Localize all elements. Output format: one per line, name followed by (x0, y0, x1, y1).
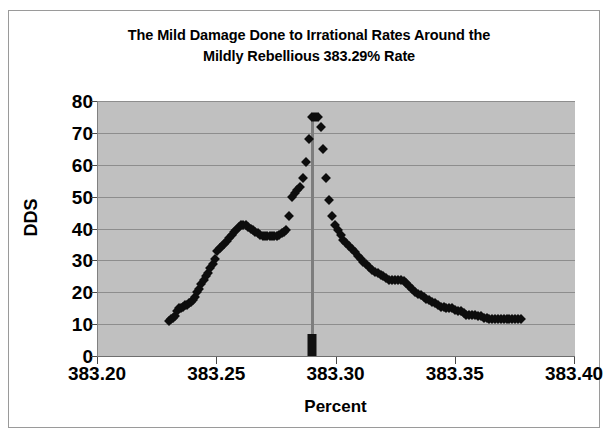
y-tick-label-40: 40 (47, 220, 93, 239)
y-tick-mark-30 (91, 260, 97, 261)
y-tick-mark-70 (91, 133, 97, 134)
data-point (284, 211, 294, 221)
plot-area (97, 101, 575, 357)
data-point (316, 122, 326, 132)
chart-title: The Mild Damage Done to Irrational Rates… (69, 25, 549, 66)
x-tick-mark-383.20 (97, 357, 98, 364)
gridline-y-30 (98, 260, 575, 261)
y-tick-label-20: 20 (47, 283, 93, 302)
y-tick-mark-80 (91, 101, 97, 102)
x-tick-label-383.30: 383.30 (276, 364, 396, 383)
data-point (321, 173, 331, 183)
y-tick-label-30: 30 (47, 251, 93, 270)
data-point (327, 211, 337, 221)
gridline-y-50 (98, 197, 575, 198)
x-tick-mark-383.40 (574, 357, 575, 364)
chart-title-line-2: Mildly Rebellious 383.29% Rate (203, 48, 415, 64)
gridline-y-60 (98, 165, 575, 166)
chart-frame: The Mild Damage Done to Irrational Rates… (8, 10, 600, 428)
y-tick-label-10: 10 (47, 315, 93, 334)
x-tick-label-383.35: 383.35 (395, 364, 515, 383)
y-tick-label-50: 50 (47, 188, 93, 207)
vertical-marker-line (311, 117, 314, 356)
x-tick-label-383.40: 383.40 (514, 364, 611, 383)
y-tick-label-70: 70 (47, 124, 93, 143)
y-tick-mark-20 (91, 292, 97, 293)
data-point (318, 144, 328, 154)
y-axis-title: DDS (21, 188, 42, 248)
x-axis-title: Percent (97, 397, 574, 417)
y-tick-label-60: 60 (47, 156, 93, 175)
y-axis-tick-labels: 01020304050607080 (35, 101, 93, 356)
y-tick-mark-50 (91, 197, 97, 198)
y-tick-label-80: 80 (47, 92, 93, 111)
y-tick-mark-10 (91, 324, 97, 325)
x-tick-mark-383.25 (216, 357, 217, 364)
y-tick-mark-60 (91, 165, 97, 166)
gridline-y-70 (98, 133, 575, 134)
chart-title-line-1: The Mild Damage Done to Irrational Rates… (128, 27, 491, 43)
y-tick-mark-40 (91, 229, 97, 230)
x-tick-label-383.20: 383.20 (37, 364, 157, 383)
vertical-marker-base (307, 334, 316, 356)
x-tick-mark-383.35 (455, 357, 456, 364)
gridline-y-20 (98, 292, 575, 293)
gridline-y-80 (98, 101, 575, 102)
x-tick-mark-383.30 (336, 357, 337, 364)
x-tick-label-383.25: 383.25 (156, 364, 276, 383)
